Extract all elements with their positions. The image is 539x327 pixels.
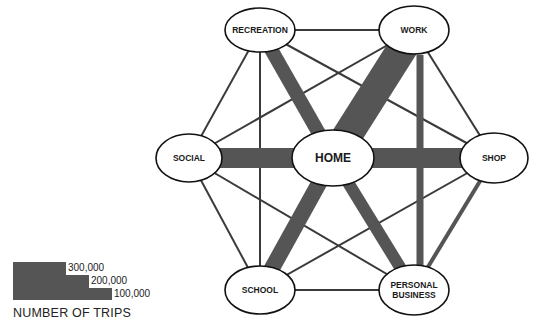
- node-label: RECREATION: [232, 25, 288, 35]
- node-label: SCHOOL: [242, 285, 278, 295]
- activity-nodes: RECREATIONWORKSOCIALHOMESHOPSCHOOLPERSON…: [156, 6, 528, 315]
- node-label: WORK: [401, 25, 429, 35]
- legend-label-200000: 200,000: [91, 276, 127, 286]
- node-recreation: RECREATION: [225, 8, 295, 52]
- legend-bar-100000: [89, 288, 112, 300]
- legend-label-100000: 100,000: [114, 289, 150, 299]
- node-label: HOME: [315, 151, 351, 165]
- node-label: PERSONAL: [390, 280, 437, 290]
- legend-label-300000: 300,000: [68, 263, 104, 273]
- node-label: SHOP: [482, 153, 506, 163]
- legend-bar-300000: [13, 262, 66, 300]
- node-label: BUSINESS: [392, 290, 436, 300]
- legend-bar-200000: [66, 275, 89, 300]
- legend: 300,000 200,000 100,000 NUMBER OF TRIPS: [13, 262, 143, 322]
- node-home: HOME: [292, 130, 374, 186]
- node-label: SOCIAL: [173, 153, 205, 163]
- node-work: WORK: [379, 6, 449, 54]
- node-social: SOCIAL: [156, 134, 222, 182]
- node-school: SCHOOL: [225, 266, 295, 314]
- node-shop: SHOP: [460, 133, 528, 183]
- legend-title: NUMBER OF TRIPS: [13, 306, 131, 320]
- node-personal-business: PERSONALBUSINESS: [379, 265, 449, 315]
